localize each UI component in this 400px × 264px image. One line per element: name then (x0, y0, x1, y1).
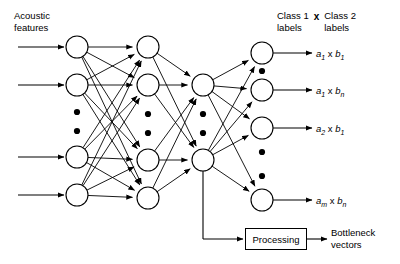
class1-label: Class 1 labels (277, 10, 309, 33)
class2-line2: labels (324, 22, 356, 34)
bottleneck-vectors-line1: Bottleneck (331, 227, 375, 239)
output-label-b-sub: 1 (341, 129, 345, 136)
bottleneck-vectors-label: Bottleneck vectors (331, 227, 375, 250)
io-arrows (18, 47, 327, 239)
bottleneck-vectors-line2: vectors (331, 239, 375, 251)
class1-line1: Class 1 (277, 10, 309, 22)
cross-product-operator: x (314, 10, 320, 23)
output-label: a1 x b1 (316, 48, 344, 61)
output-label-b-sub: n (341, 91, 345, 98)
processing-box-label: Processing (253, 234, 300, 245)
class2-line1: Class 2 (324, 10, 356, 22)
output-label-op: x (325, 123, 335, 134)
class-labels-header: Class 1 labels x Class 2 labels (277, 10, 356, 33)
output-label-op: x (325, 85, 335, 96)
output-label: a2 x b1 (316, 123, 344, 136)
output-label: a1 x bn (316, 85, 344, 98)
neural-network-diagram: Acoustic features Class 1 labels x Class… (0, 0, 400, 264)
class1-line2: labels (277, 22, 309, 34)
acoustic-features-label: Acoustic features (14, 10, 50, 33)
acoustic-features-line1: Acoustic (14, 10, 50, 22)
output-label: am x bn (316, 195, 346, 208)
class2-label: Class 2 labels (324, 10, 356, 33)
output-label-op: x (327, 195, 337, 206)
output-label-b-sub: n (342, 201, 346, 208)
acoustic-features-line2: features (14, 22, 50, 34)
output-label-b-sub: 1 (341, 54, 345, 61)
network-edges (82, 47, 255, 197)
processing-box[interactable]: Processing (245, 228, 307, 250)
output-label-op: x (325, 48, 335, 59)
